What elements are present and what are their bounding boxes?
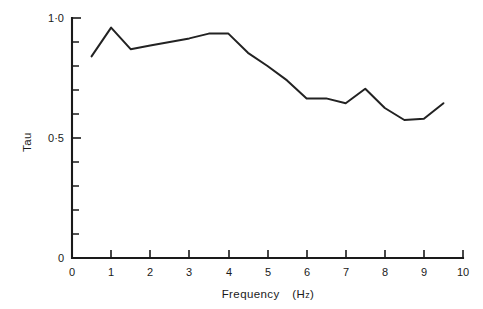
x-axis-ticks (72, 250, 463, 258)
y-axis-title: Tau (21, 132, 33, 152)
x-tick-label-8: 8 (382, 266, 388, 278)
x-tick-label-9: 9 (421, 266, 427, 278)
x-axis-title: Frequency (Hz) (222, 288, 315, 300)
x-tick-label-4: 4 (226, 266, 232, 278)
y-axis-major-ticks (72, 18, 81, 258)
y-tick-label-05: 0·5 (48, 132, 64, 144)
x-tick-label-7: 7 (343, 266, 349, 278)
tau-frequency-curve (92, 28, 444, 120)
x-axis-title-main: Frequency (222, 288, 280, 300)
x-tick-label-2: 2 (147, 266, 153, 278)
x-tick-label-1: 1 (108, 266, 114, 278)
line-chart: 1·0 0·5 0 0 1 2 3 4 5 6 7 8 9 10 Frequen… (0, 0, 483, 309)
x-tick-label-6: 6 (304, 266, 310, 278)
x-tick-label-10: 10 (457, 266, 469, 278)
x-axis-title-unit-open: (H (292, 288, 305, 300)
y-tick-label-0: 0 (58, 252, 64, 264)
y-tick-label-1: 1·0 (48, 12, 64, 24)
chart-figure: 1·0 0·5 0 0 1 2 3 4 5 6 7 8 9 10 Frequen… (0, 0, 483, 309)
x-tick-label-5: 5 (265, 266, 271, 278)
x-tick-label-3: 3 (186, 266, 192, 278)
x-tick-label-0: 0 (69, 266, 75, 278)
x-axis-title-unit-close: ) (310, 288, 314, 300)
axis-frame (72, 18, 463, 258)
